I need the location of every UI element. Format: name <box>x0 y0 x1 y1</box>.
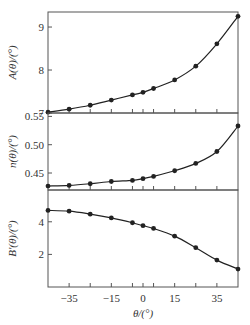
data-point <box>141 223 146 228</box>
data-point <box>130 220 135 225</box>
x-axis-label: θ/(°) <box>133 307 154 320</box>
data-point <box>88 181 93 186</box>
data-point <box>172 234 177 239</box>
stacked-line-charts: 789A(θ)/(°)0.450.500.55n(θ)/(°)24B'(θ)/(… <box>0 0 250 325</box>
x-tick-label: 35 <box>211 292 223 304</box>
data-line <box>48 16 238 112</box>
panel-frame <box>48 12 238 113</box>
data-point <box>109 179 114 184</box>
panel-top: 789A(θ)/(°) <box>6 12 240 119</box>
data-point <box>236 267 241 272</box>
x-tick-label: 0 <box>140 292 146 304</box>
x-tick-label: −35 <box>61 292 79 304</box>
data-point <box>67 107 72 112</box>
y-tick-label: 8 <box>39 64 45 76</box>
panel-middle: 0.450.500.55n(θ)/(°) <box>6 110 240 190</box>
data-point <box>88 212 93 217</box>
data-point <box>214 258 219 263</box>
panel-frame <box>48 190 238 287</box>
data-point <box>214 149 219 154</box>
x-tick-label: 15 <box>169 292 181 304</box>
y-axis-label: A(θ)/(°) <box>6 45 19 81</box>
data-point <box>67 209 72 214</box>
data-point <box>193 161 198 166</box>
panel-bottom: 24B'(θ)/(°) <box>6 190 240 287</box>
data-point <box>193 245 198 250</box>
data-point <box>172 78 177 83</box>
data-point <box>141 90 146 95</box>
data-point <box>151 174 156 179</box>
data-point <box>109 98 114 103</box>
data-point <box>88 103 93 108</box>
chart-canvas: 789A(θ)/(°)0.450.500.55n(θ)/(°)24B'(θ)/(… <box>0 0 250 325</box>
y-axis-label: n(θ)/(°) <box>6 135 19 168</box>
data-point <box>67 183 72 188</box>
data-point <box>236 14 241 19</box>
data-line <box>48 210 238 269</box>
data-point <box>151 86 156 91</box>
data-point <box>172 168 177 173</box>
y-tick-label: 2 <box>39 248 45 260</box>
data-point <box>193 64 198 69</box>
x-tick-label: −15 <box>103 292 121 304</box>
data-point <box>46 184 51 189</box>
data-point <box>236 124 241 129</box>
y-tick-label: 9 <box>39 21 45 33</box>
data-point <box>130 178 135 183</box>
data-point <box>130 93 135 98</box>
y-axis-label: B'(θ)/(°) <box>6 220 19 257</box>
y-tick-label: 0.55 <box>25 110 45 122</box>
data-point <box>46 208 51 213</box>
y-tick-label: 0.45 <box>25 167 45 179</box>
data-point <box>109 215 114 220</box>
y-tick-label: 4 <box>39 216 45 228</box>
y-tick-label: 0.50 <box>25 139 45 151</box>
data-point <box>151 226 156 231</box>
data-point <box>141 176 146 181</box>
data-point <box>214 41 219 46</box>
